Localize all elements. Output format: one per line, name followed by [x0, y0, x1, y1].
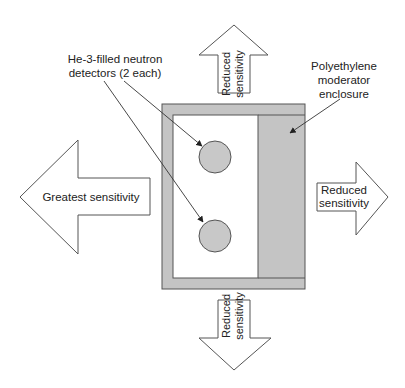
moderator-label-line2: moderator — [304, 73, 384, 87]
up-arrow-label-line2: sensitivity — [233, 44, 246, 104]
sensitivity-diagram: He-3-filled neutron detectors (2 each) P… — [0, 0, 405, 388]
down-arrow-label-line2: sensitivity — [233, 286, 246, 346]
up-arrow-label-line1: Reduced — [220, 44, 233, 104]
up-arrow-label: Reduced sensitivity — [220, 44, 248, 104]
moderator-label-line1: Polyethylene — [304, 59, 384, 73]
right-arrow-label: Reduced sensitivity — [319, 184, 369, 210]
down-arrow-label-line1: Reduced — [220, 286, 233, 346]
moderator-enclosure — [162, 104, 305, 289]
moderator-label: Polyethylene moderator enclosure — [304, 59, 384, 101]
right-arrow-label-line2: sensitivity — [319, 197, 369, 210]
detector-top — [199, 141, 231, 173]
detectors-label-line2: detectors (2 each) — [60, 66, 170, 80]
left-arrow-label: Greatest sensitivity — [36, 190, 146, 204]
moderator-label-line3: enclosure — [304, 87, 384, 101]
down-arrow-label: Reduced sensitivity — [220, 286, 248, 346]
right-arrow-label-line1: Reduced — [319, 184, 369, 197]
detector-bottom — [199, 220, 231, 252]
detectors-label-line1: He-3-filled neutron — [60, 52, 170, 66]
detectors-label: He-3-filled neutron detectors (2 each) — [60, 52, 170, 80]
